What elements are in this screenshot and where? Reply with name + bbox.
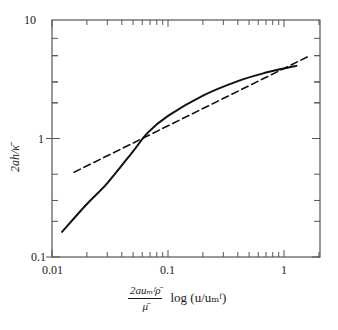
solid-curve xyxy=(62,66,296,232)
x-tick-label-1: 1 xyxy=(281,264,287,276)
x-axis-label-fraction: 2auₘᶠρ̄ μ̄ xyxy=(128,284,162,312)
axis-ticks xyxy=(46,20,320,257)
data-series xyxy=(62,56,310,232)
y-axis-label: 2ah/κ̄ xyxy=(8,145,23,172)
plot-border xyxy=(52,20,320,257)
y-tick-label-10: 10 xyxy=(24,14,36,26)
y-tick-label-0-1: 0.1 xyxy=(31,251,46,263)
x-axis-label: 2auₘᶠρ̄ μ̄ log (u/uₘᶠ) xyxy=(128,284,226,312)
dashed-line xyxy=(74,56,310,173)
x-tick-label-0-01: 0.01 xyxy=(42,264,63,276)
chart-canvas xyxy=(0,0,338,330)
x-axis-label-denominator: μ̄ xyxy=(142,299,148,312)
x-tick-label-0-1: 0.1 xyxy=(160,264,175,276)
y-tick-label-1: 1 xyxy=(38,133,44,145)
plot-frame xyxy=(52,20,320,257)
x-axis-label-suffix: log (u/uₘᶠ) xyxy=(170,290,226,306)
x-axis-label-numerator: 2auₘᶠρ̄ xyxy=(128,284,162,299)
